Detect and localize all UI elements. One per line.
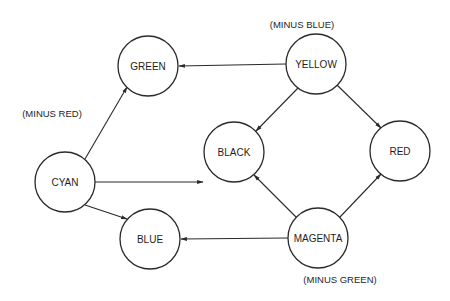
edge-yellow-green [179,64,286,66]
annotation-minus-green: (MINUS GREEN) [303,274,376,285]
node-black-label: BLACK [218,147,251,158]
node-blue: BLUE [120,209,180,269]
node-yellow-label: YELLOW [295,59,337,70]
annotation-minus-red: (MINUS RED) [22,108,82,119]
edge-cyan-green [85,87,127,159]
node-red-label: RED [389,146,410,157]
node-black: BLACK [204,122,264,182]
node-blue-label: BLUE [137,234,163,245]
edge-magenta-blue [181,238,288,239]
edge-yellow-red [337,85,381,128]
node-magenta-label: MAGENTA [294,233,343,244]
node-yellow: YELLOW [286,34,346,94]
edge-yellow-black [256,88,298,131]
node-green-label: GREEN [130,61,166,72]
annotation-minus-blue: (MINUS BLUE) [270,19,334,30]
edge-magenta-red [340,174,381,217]
node-green: GREEN [118,36,178,96]
node-cyan: CYAN [35,152,95,212]
node-red: RED [370,121,430,181]
edge-magenta-black [254,175,296,217]
color-subtraction-diagram: GREEN YELLOW CYAN BLACK RED BLUE MAGENTA… [0,0,450,301]
node-cyan-label: CYAN [51,177,78,188]
edge-cyan-blue [85,205,127,219]
node-magenta: MAGENTA [288,208,348,268]
